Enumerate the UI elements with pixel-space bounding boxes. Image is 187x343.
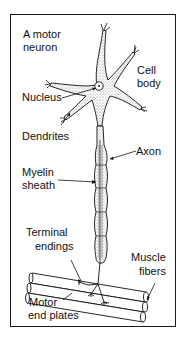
title-line-1: A motor <box>23 28 61 41</box>
cell-body-label-2: body <box>137 77 161 90</box>
muscle-label-2: fibers <box>139 265 166 278</box>
title-line-2: neuron <box>23 41 57 54</box>
motor-label-2: end plates <box>28 309 79 322</box>
dendrites-label: Dendrites <box>22 130 69 143</box>
cell-body-label-1: Cell <box>137 64 156 77</box>
terminal-label-2: endings <box>35 240 74 253</box>
axon-myelin <box>95 126 108 263</box>
axon-label: Axon <box>136 145 161 158</box>
myelin-label-1: Myelin <box>22 166 54 179</box>
nucleus-label: Nucleus <box>22 91 62 104</box>
myelin-label-2: sheath <box>22 179 55 192</box>
motor-label-1: Motor <box>29 296 57 309</box>
muscle-label-1: Muscle <box>131 251 166 264</box>
terminal-label-1: Terminal <box>26 226 68 239</box>
nucleus <box>95 82 103 90</box>
